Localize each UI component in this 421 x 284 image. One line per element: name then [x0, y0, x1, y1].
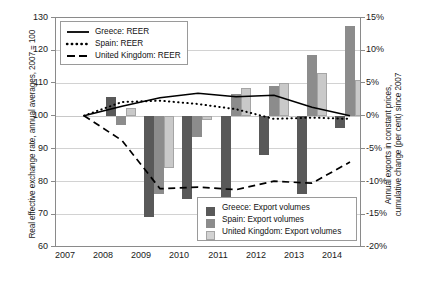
- legend-item-greece-reer: Greece: REER: [65, 25, 182, 37]
- xtick-2013: 2013: [274, 251, 314, 260]
- line-key-dashed-icon: [65, 50, 91, 61]
- swatch-spain-icon: [202, 214, 218, 225]
- xtick-2008: 2008: [83, 251, 123, 260]
- ytick-right-n15: -15%: [366, 209, 400, 218]
- tickmark-right-0: [361, 115, 365, 116]
- xtick-2014: 2014: [312, 251, 352, 260]
- ytick-left-130: 130: [22, 13, 48, 22]
- xtick-2009: 2009: [121, 251, 161, 260]
- legend-item-uk-exports: United Kingdom: Export volumes: [202, 225, 351, 237]
- legend-label-uk-exports: United Kingdom: Export volumes: [222, 226, 341, 237]
- xtick-2012: 2012: [236, 251, 276, 260]
- ytick-right-n20: -20%: [366, 242, 400, 251]
- tickmark-right-10: [361, 50, 365, 51]
- ytick-right-n10: -10%: [366, 177, 400, 186]
- legend-label-spain-exports: Spain: Export volumes: [222, 214, 304, 225]
- line-uk-reer: [84, 116, 350, 190]
- line-key-dotted-icon: [65, 38, 91, 49]
- legend-label-uk-reer: United Kingdom: REER: [95, 50, 181, 61]
- ytick-right-n5: -5%: [366, 144, 400, 153]
- ytick-left-60: 60: [22, 242, 48, 251]
- line-greece-reer: [84, 93, 350, 116]
- legend-item-greece-exports: Greece: Export volumes: [202, 201, 351, 213]
- legend-label-greece-reer: Greece: REER: [95, 26, 149, 37]
- xtick-2011: 2011: [198, 251, 238, 260]
- ytick-right-15: 15%: [366, 13, 400, 22]
- legend-reer-lines: Greece: REER Spain: REER United Kingdom:…: [60, 21, 188, 65]
- tickmark-right-n10: [361, 181, 365, 182]
- tickmark-right-n15: [361, 214, 365, 215]
- ytick-left-110: 110: [22, 78, 48, 87]
- xtick-2007: 2007: [45, 251, 85, 260]
- ytick-left-120: 120: [22, 45, 48, 54]
- tickmark-right-5: [361, 82, 365, 83]
- ytick-left-80: 80: [22, 177, 48, 186]
- xtick-2010: 2010: [159, 251, 199, 260]
- ytick-left-100: 100: [22, 111, 48, 120]
- swatch-uk-icon: [202, 226, 218, 237]
- tickmark-right-n20: [361, 246, 365, 247]
- legend-label-greece-exports: Greece: Export volumes: [222, 202, 310, 213]
- chart-figure: Real effective exchange rate, annual ave…: [0, 0, 421, 284]
- tickmark-right-n5: [361, 148, 365, 149]
- legend-item-spain-reer: Spain: REER: [65, 37, 182, 49]
- tickmark-right-15: [361, 17, 365, 18]
- legend-label-spain-reer: Spain: REER: [95, 38, 143, 49]
- ytick-left-70: 70: [22, 209, 48, 218]
- ytick-left-90: 90: [22, 144, 48, 153]
- ytick-right-0: 0%: [366, 111, 400, 120]
- swatch-greece-icon: [202, 202, 218, 213]
- line-spain-reer: [84, 101, 350, 119]
- ytick-right-5: 5%: [366, 78, 400, 87]
- legend-item-uk-reer: United Kingdom: REER: [65, 49, 182, 61]
- legend-item-spain-exports: Spain: Export volumes: [202, 213, 351, 225]
- legend-export-volumes: Greece: Export volumes Spain: Export vol…: [197, 197, 357, 241]
- ytick-right-10: 10%: [366, 45, 400, 54]
- line-key-solid-icon: [65, 26, 91, 37]
